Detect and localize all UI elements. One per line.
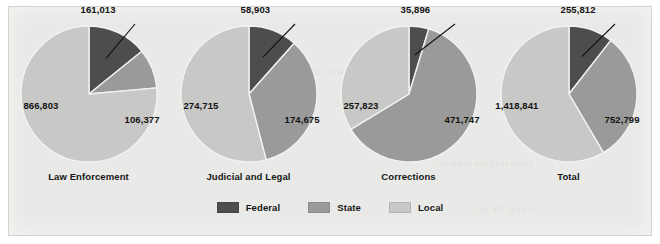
pie-chart-total: 255,812752,7991,418,841Total [486,0,651,200]
chart-legend: FederalStateLocal [0,202,660,213]
value-label-local: 274,715 [183,100,218,111]
pie-chart-area: 161,013106,377866,803Law Enforcement58,9… [0,0,660,200]
figure-root: Division the justice system employment o… [0,0,660,244]
pie-chart-title: Total [486,171,651,182]
legend-item-local[interactable]: Local [389,202,443,213]
legend-label: Federal [246,202,281,213]
pie-chart-law-enforcement: 161,013106,377866,803Law Enforcement [6,0,171,200]
value-label-state: 106,377 [125,114,160,125]
value-label-local: 866,803 [23,100,58,111]
legend-swatch-icon [308,202,330,213]
value-label-state: 752,799 [605,114,640,125]
value-label-local: 1,418,841 [495,100,538,111]
callout-value-label: 58,903 [241,4,271,15]
pie-chart-judicial-and-legal: 58,903174,675274,715Judicial and Legal [166,0,331,200]
pie-svg [497,22,641,166]
value-label-state: 174,675 [285,114,320,125]
legend-item-federal[interactable]: Federal [217,202,281,213]
value-label-local: 257,823 [343,100,378,111]
pie-svg [17,22,161,166]
callout-value-label: 35,896 [401,4,431,15]
legend-swatch-icon [217,202,239,213]
pie-chart-corrections: 35,896471,747257,823Corrections [326,0,491,200]
pie-svg [337,22,481,166]
pie-chart-title: Corrections [326,171,491,182]
legend-swatch-icon [389,202,411,213]
pie-svg [177,22,321,166]
callout-value-label: 161,013 [81,4,116,15]
pie-chart-title: Law Enforcement [6,171,171,182]
pie-chart-title: Judicial and Legal [166,171,331,182]
legend-label: Local [418,202,443,213]
value-label-state: 471,747 [445,114,480,125]
callout-value-label: 255,812 [561,4,596,15]
legend-label: State [337,202,361,213]
legend-item-state[interactable]: State [308,202,361,213]
